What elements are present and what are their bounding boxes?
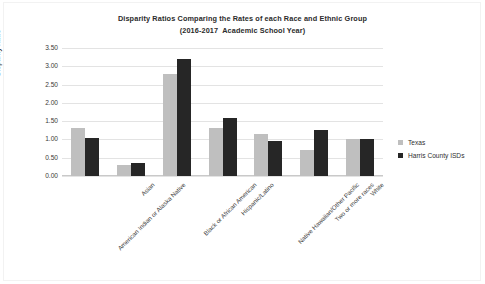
plot-area [62, 48, 383, 176]
bar-texas [117, 165, 131, 176]
chart-subtitle: (2016-2017 Academic School Year) [0, 25, 485, 37]
y-axis-tick-label: 1.50 [45, 117, 58, 125]
x-axis-category-label: Native Hawaiian/Other Pacific [297, 181, 361, 245]
bar-group [254, 48, 282, 176]
legend-label: Harris County ISDs [408, 152, 464, 159]
bar-texas [209, 128, 223, 176]
chart-title: Disparity Ratios Comparing the Rates of … [0, 13, 485, 25]
y-axis-tick-label: 2.50 [45, 81, 58, 89]
legend-label: Texas [408, 139, 425, 146]
x-axis-category-labels: American Indian or Alaska NativeAsianBla… [0, 177, 485, 282]
bar-texas [346, 139, 360, 176]
bar-group [209, 48, 237, 176]
bar-harris-county-isds [223, 118, 237, 177]
bar-texas [71, 128, 85, 176]
y-axis-tick-labels: 3.503.002.502.001.501.000.500.00 [30, 44, 58, 180]
y-axis-title: Disparity Ratio [0, 29, 1, 76]
bar-group [163, 48, 191, 176]
y-axis-tick-label: 3.50 [45, 44, 58, 52]
y-axis-tick-label: 3.00 [45, 62, 58, 70]
bar-harris-county-isds [268, 141, 282, 176]
legend-swatch-icon [398, 140, 403, 145]
x-axis-category-label: Asian [139, 181, 155, 197]
bar-texas [254, 134, 268, 176]
legend-swatch-icon [398, 153, 403, 158]
chart-screenshot: Disparity Ratios Comparing the Rates of … [0, 0, 485, 284]
bar-group [117, 48, 145, 176]
bar-group [300, 48, 328, 176]
bar-group [71, 48, 99, 176]
bar-harris-county-isds [177, 59, 191, 176]
bar-harris-county-isds [360, 139, 374, 176]
bar-texas [163, 74, 177, 176]
legend-item: Harris County ISDs [398, 149, 482, 162]
title-block: Disparity Ratios Comparing the Rates of … [0, 13, 485, 37]
bar-texas [300, 150, 314, 176]
y-axis-tick-label: 2.00 [45, 99, 58, 107]
legend-item: Texas [398, 136, 482, 149]
y-axis-tick-label: 1.00 [45, 135, 58, 143]
bar-harris-county-isds [131, 163, 145, 176]
bar-harris-county-isds [85, 138, 99, 176]
chart-legend: TexasHarris County ISDs [398, 136, 482, 162]
x-axis-category-label: American Indian or Alaska Native [116, 181, 187, 252]
bar-harris-county-isds [314, 130, 328, 176]
bar-group [346, 48, 374, 176]
bars-layer [62, 48, 383, 176]
y-axis-tick-label: 0.50 [45, 154, 58, 162]
